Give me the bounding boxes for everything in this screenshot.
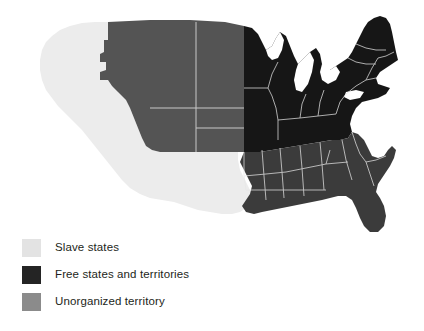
map-region-free-states bbox=[244, 16, 398, 152]
map-svg bbox=[0, 0, 424, 248]
us-slave-free-states-map: Slave states Free states and territories… bbox=[0, 0, 424, 331]
legend-label-free-states: Free states and territories bbox=[55, 268, 189, 281]
legend-label-slave-states: Slave states bbox=[55, 241, 119, 254]
map-legend: Slave states Free states and territories… bbox=[22, 234, 272, 315]
legend-swatch-slave-states bbox=[22, 239, 41, 257]
legend-item-free-states: Free states and territories bbox=[22, 261, 272, 288]
legend-swatch-unorganized-territory bbox=[22, 293, 41, 311]
legend-item-unorganized-territory: Unorganized territory bbox=[22, 288, 272, 315]
map-canvas bbox=[0, 0, 424, 248]
legend-item-slave-states: Slave states bbox=[22, 234, 272, 261]
legend-swatch-free-states bbox=[22, 266, 41, 284]
legend-label-unorganized-territory: Unorganized territory bbox=[55, 295, 165, 308]
